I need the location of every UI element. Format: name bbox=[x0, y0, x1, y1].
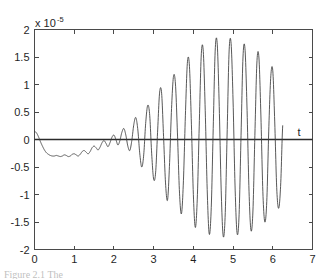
y-tick-label: 1 bbox=[23, 79, 29, 91]
x-tick-label: 5 bbox=[230, 253, 236, 265]
y-tick-label: -1 bbox=[20, 189, 30, 201]
figure-root: 01234567 -2-1.5-1-0.500.511.52 x 10 -5 t… bbox=[0, 0, 324, 279]
x-tick-label: 1 bbox=[71, 253, 77, 265]
y-tick-label: 0 bbox=[23, 134, 29, 146]
y-tick-label: -2 bbox=[20, 244, 30, 256]
y-tick-label: 1.5 bbox=[14, 51, 29, 63]
x-tick-label: 6 bbox=[270, 253, 276, 265]
y-axis-tick-labels: -2-1.5-1-0.500.511.52 bbox=[11, 24, 30, 256]
x-tick-label: 4 bbox=[190, 253, 196, 265]
y-tick-label: 0.5 bbox=[14, 106, 29, 118]
x-tick-label: 2 bbox=[111, 253, 117, 265]
y-axis-multiplier-exponent: -5 bbox=[57, 15, 64, 24]
x-tick-label: 0 bbox=[31, 253, 37, 265]
x-tick-label: 3 bbox=[151, 253, 157, 265]
x-tick-label: 7 bbox=[309, 253, 315, 265]
y-axis-multiplier-base: x 10 bbox=[35, 17, 56, 29]
x-axis-tick-labels: 01234567 bbox=[31, 253, 315, 265]
waveform-curve bbox=[35, 38, 283, 237]
t-axis-annotation: t bbox=[297, 126, 300, 138]
y-tick-label: -0.5 bbox=[11, 161, 30, 173]
y-tick-label: 2 bbox=[23, 24, 29, 36]
plot-canvas: 01234567 -2-1.5-1-0.500.511.52 x 10 -5 t bbox=[0, 0, 324, 279]
figure-caption-strip: Figure 2.1 The bbox=[0, 268, 324, 279]
figure-caption: Figure 2.1 The bbox=[4, 269, 63, 279]
y-tick-label: -1.5 bbox=[11, 216, 30, 228]
